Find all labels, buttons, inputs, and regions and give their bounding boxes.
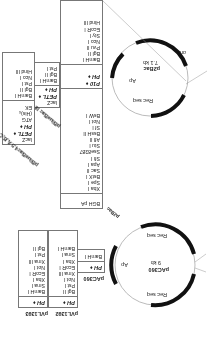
pac360-ap-label: Ap — [121, 262, 128, 268]
pvl1393-cassette: PH ♦ BamH I Sma I Xba I EcoR I Not I Xma… — [18, 230, 48, 308]
p2bac-plasmid-map — [103, 1, 207, 116]
pbluebac45-mcs: BamH I Bgl II Pst I Nco I Hind III — [3, 68, 34, 100]
p2bac-name: p2Bac — [143, 66, 160, 72]
pac360-name: pAC360 — [149, 267, 169, 273]
p2bac-rec-seq-label: Rec seq — [133, 98, 153, 104]
bgh-pa-section: BGH pA — [61, 193, 102, 208]
pac360-size: 9 kb — [151, 260, 161, 266]
rec-seq-arc-3 — [151, 274, 194, 305]
p2bac-ori-label: ori — [180, 50, 186, 56]
pbluebac3-cassette: lacZ PETL ♦ PH ♦ BamH I Bgl II Pst I — [34, 62, 60, 108]
p2bac-ap-label: Ap — [129, 78, 136, 84]
p2bac-mcs2: Xba I Spe I BstX I Sac II Apa I Sfi I Ss… — [61, 88, 102, 193]
pvl1392-cassette: PH ♦ Bgl II Pst I Not I Xma III EcoR I X… — [48, 230, 78, 308]
pvl1392-promoter: PH ♦ — [49, 296, 77, 307]
p2bac-cassette: BGH pA Xba I Spe I BstX I Sac II Apa I S… — [60, 0, 103, 209]
p2bac-promoters: P10 ♦ PH ♦ — [61, 64, 102, 88]
rec-seq-arc-2 — [151, 95, 184, 116]
pbluebac45-cassette: lacZ PETL ♦ PH ♦ ATG (His)₆ EK BamH I Bg… — [2, 52, 35, 145]
pvl1392-mcs: Bgl II Pst I Not I Xma III EcoR I Xba I … — [49, 245, 77, 296]
pbluebac3-promoters: lacZ PETL ♦ PH ♦ — [35, 85, 59, 107]
pvl1392-label: pVL1392 — [55, 311, 78, 317]
p2bac-mcs1: BamH I Bgl II Pvu II Nco I Sty I EcoR I … — [61, 1, 102, 64]
pac360-rec-seq-top: Rec seq — [147, 292, 167, 298]
vector-diagram: p2Bac 7.1 kb ori Ap Rec seq pAC360 9 kb … — [0, 0, 211, 346]
pvl1393-mcs: BamH I Sma I Xba I EcoR I Not I Xma III … — [19, 245, 47, 296]
pac360-cassette-label: pAC360 — [84, 276, 104, 282]
ap-arc — [112, 54, 123, 78]
pvl1393-promoter: PH ♦ — [19, 296, 47, 307]
p2bac-size: 7.1 kb — [143, 60, 158, 66]
pvl1393-label: pVL1393 — [25, 311, 48, 317]
rec-seq-arc-4 — [141, 224, 194, 254]
pac360-rec-seq-bottom: Rec seq — [147, 233, 167, 239]
pbluebac3-mcs: BamH I Bgl II Pst I — [35, 65, 59, 85]
